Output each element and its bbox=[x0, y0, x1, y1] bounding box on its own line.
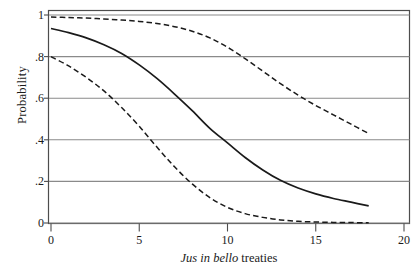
x-tick-label: 15 bbox=[296, 234, 336, 246]
y-axis-title: Probability bbox=[14, 0, 30, 232]
x-tick-label: 20 bbox=[384, 234, 414, 246]
x-axis-title-roman: treaties bbox=[238, 251, 277, 265]
plot-frame bbox=[49, 11, 410, 224]
data-series-group bbox=[51, 17, 369, 223]
x-tick-label: 0 bbox=[31, 234, 71, 246]
series-upper-confidence-bound bbox=[51, 17, 369, 133]
chart-figure: 0.2.4.6.81 05101520 Probability Jus in b… bbox=[0, 0, 414, 274]
plot-area bbox=[0, 0, 414, 274]
series-point-estimate bbox=[51, 29, 369, 206]
x-tick-marks bbox=[51, 224, 404, 232]
gridlines bbox=[49, 15, 410, 223]
x-tick-label: 10 bbox=[208, 234, 248, 246]
x-axis-title-italic: Jus in bello bbox=[181, 251, 239, 265]
x-axis-title: Jus in bello treaties bbox=[48, 250, 410, 266]
x-tick-label: 5 bbox=[119, 234, 159, 246]
